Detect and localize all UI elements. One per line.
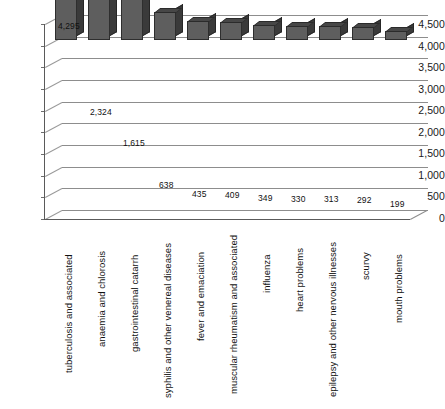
- bar-value-label: 1,615: [123, 139, 145, 148]
- x-axis-category-label: epilepsy and other nervous illnesses: [328, 242, 338, 397]
- x-axis-category-label: mouth problems: [394, 254, 404, 323]
- x-axis-category-label: scurvy: [361, 252, 371, 280]
- x-axis-line: [44, 219, 410, 220]
- bar-front-face: [319, 26, 341, 40]
- bar-chart: 4,500 4,000 3,500 3,000 2,500 2,000 1,50…: [0, 0, 445, 409]
- gridline: [62, 188, 428, 189]
- x-axis-category-label: syphilis and other venereal diseases: [163, 243, 173, 398]
- y-axis-tick-label: 3,500: [409, 62, 445, 72]
- bar-side-face: [308, 18, 315, 36]
- y-axis-tick-label: 1,000: [409, 170, 445, 180]
- y-axis-tick-label: 3,000: [409, 84, 445, 94]
- y-axis-tick-label: 4,000: [409, 41, 445, 51]
- bar-value-label: 409: [225, 191, 239, 200]
- bar-value-label: 292: [357, 196, 371, 205]
- y-axis-tick-label: 500: [409, 191, 445, 201]
- bar-front-face: [253, 25, 275, 40]
- y-axis-line: [44, 24, 45, 220]
- gridline-depth: [45, 167, 62, 177]
- bar-column: [385, 31, 407, 40]
- bar-value-label: 349: [258, 194, 272, 203]
- bar-column: [286, 26, 308, 40]
- bar-column: [121, 0, 143, 40]
- bar-side-face: [341, 18, 348, 36]
- bar-value-label: 199: [390, 200, 404, 209]
- bar-front-face: [88, 0, 110, 40]
- gridline-depth: [45, 145, 62, 155]
- bar-value-label: 2,324: [90, 108, 112, 117]
- gridline-depth: [45, 58, 62, 68]
- bar-front-face: [55, 0, 77, 40]
- y-axis-tick-label: 0: [409, 213, 445, 223]
- bar-front-face: [220, 22, 242, 40]
- y-axis-tick-label: 2,000: [409, 127, 445, 137]
- gridline: [62, 80, 428, 81]
- gridline: [62, 58, 428, 59]
- bar-column: [220, 22, 242, 40]
- bar-value-label: 330: [291, 195, 305, 204]
- bar-value-label: 4,295: [58, 22, 80, 31]
- bar-column: [154, 12, 176, 40]
- gridline: [62, 123, 428, 124]
- bar-front-face: [187, 21, 209, 40]
- bar-front-face: [121, 0, 143, 40]
- bar-column: [187, 21, 209, 40]
- x-axis-category-label: muscular rheumatism and associated: [229, 235, 239, 394]
- gridline: [62, 210, 428, 211]
- y-axis-tick-label: 4,500: [409, 19, 445, 29]
- bar-value-label: 435: [192, 190, 206, 199]
- gridline-depth: [45, 123, 62, 133]
- bar-column: [55, 0, 77, 40]
- x-axis-category-label: tuberculosis and associated: [64, 254, 74, 373]
- bar-front-face: [385, 31, 407, 40]
- plot-area: 4,500 4,000 3,500 3,000 2,500 2,000 1,50…: [0, 0, 445, 230]
- bar-value-label: 638: [159, 181, 173, 190]
- gridline-depth: [45, 102, 62, 112]
- bar-front-face: [154, 12, 176, 40]
- bar-column: [88, 0, 110, 40]
- x-axis-category-label: influenza: [262, 255, 272, 293]
- bar-column: [352, 27, 374, 40]
- bar-side-face: [374, 19, 381, 36]
- gridline: [62, 167, 428, 168]
- bar-column: [319, 26, 341, 40]
- y-axis-tick-label: 1,500: [409, 148, 445, 158]
- bar-front-face: [352, 27, 374, 40]
- bar-column: [253, 25, 275, 40]
- bar-side-face: [143, 0, 150, 36]
- gridline: [62, 145, 428, 146]
- bar-side-face: [275, 17, 282, 36]
- x-axis-category-label: heart problems: [295, 248, 305, 312]
- x-axis-category-label: gastrointestinal catarrh: [130, 255, 140, 352]
- y-axis-tick-label: 2,500: [409, 105, 445, 115]
- gridline-depth: [45, 80, 62, 90]
- bar-side-face: [110, 0, 117, 36]
- gridline-depth: [45, 188, 62, 198]
- bar-front-face: [286, 26, 308, 40]
- x-axis-category-label: fever and emaciation: [196, 252, 206, 341]
- gridline: [62, 102, 428, 103]
- x-axis-category-label: anaemia and chlorosis: [97, 251, 107, 347]
- bar-value-label: 313: [324, 195, 338, 204]
